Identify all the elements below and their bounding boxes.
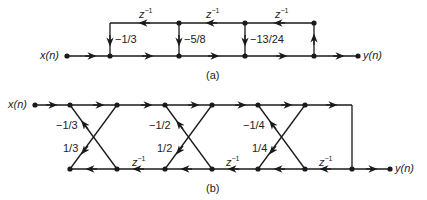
signal-flow-graphs: [0, 0, 427, 200]
delay-label-a3: z−1: [275, 7, 288, 20]
upper-coefficient-b1: −1/3: [56, 120, 78, 131]
diagram-b: [35, 105, 390, 169]
caption-b: (b): [206, 183, 219, 194]
diagram-a: [67, 23, 358, 56]
delay-label-b3: z−1: [319, 155, 332, 168]
output-label-b: y(n): [395, 163, 414, 174]
delay-label-a1: z−1: [139, 7, 152, 20]
lower-coefficient-b2: 1/2: [157, 143, 172, 154]
lower-coefficient-b1: 1/3: [63, 143, 78, 154]
delay-label-b2: z−1: [226, 155, 239, 168]
output-label-a: y(n): [363, 50, 382, 61]
input-label-b: x(n): [8, 99, 27, 110]
caption-a: (a): [206, 70, 219, 81]
lower-coefficient-b3: 1/4: [252, 143, 267, 154]
upper-coefficient-b2: −1/2: [149, 120, 171, 131]
coefficient-a3: −13/24: [250, 34, 284, 45]
delay-label-b1: z−1: [132, 155, 145, 168]
upper-coefficient-b3: −1/4: [243, 120, 265, 131]
coefficient-a1: −1/3: [115, 34, 137, 45]
input-label-a: x(n): [40, 50, 59, 61]
coefficient-a2: −5/8: [184, 34, 206, 45]
delay-label-a2: z−1: [206, 7, 219, 20]
